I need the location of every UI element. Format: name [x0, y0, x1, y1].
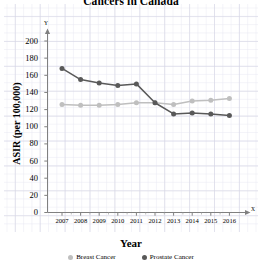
- legend-label: Breast Cancer: [76, 253, 115, 261]
- legend-label: Prostate Cancer: [150, 253, 194, 261]
- x-axis-marker-label: X: [251, 206, 255, 212]
- chart-plot: [0, 0, 262, 266]
- y-axis-title: ASIR (per 100,000): [11, 64, 22, 184]
- y-tick-label: 0: [10, 208, 38, 217]
- legend-marker-icon: [142, 255, 147, 260]
- y-tick-label: 200: [10, 37, 38, 46]
- chart-container: Cancers in Canada 0204060801001201401601…: [0, 0, 262, 266]
- series-breast-cancer: [60, 96, 232, 108]
- chart-legend: Breast CancerProstate Cancer: [0, 253, 262, 261]
- series-prostate-cancer: [60, 66, 232, 118]
- legend-marker-icon: [68, 255, 73, 260]
- x-axis-title: Year: [0, 237, 262, 249]
- legend-item[interactable]: Breast Cancer: [68, 253, 115, 261]
- y-tick-label: 180: [10, 54, 38, 63]
- legend-item[interactable]: Prostate Cancer: [142, 253, 194, 261]
- y-tick-label: 20: [10, 191, 38, 200]
- x-tick-label: 2016: [217, 218, 241, 225]
- y-axis-marker-label: Y: [44, 20, 48, 26]
